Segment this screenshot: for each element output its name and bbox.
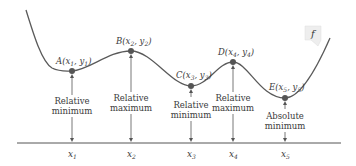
x4-tick-label: x4: [229, 149, 238, 160]
point-a: A(x1, y1) Relative minimum x1: [52, 56, 93, 160]
point-d-marker: [230, 59, 236, 65]
point-c-label: C(x3, y3): [176, 70, 212, 81]
point-a-annotation-2: minimum: [52, 106, 93, 116]
point-d-label: D(x4, y4): [217, 47, 254, 58]
point-a-annotation-1: Relative: [54, 96, 89, 106]
point-b-marker: [128, 48, 134, 54]
point-e-annotation-2: minimum: [265, 121, 306, 131]
point-c-annotation-2: minimum: [171, 110, 212, 120]
point-e-label: E(x5, y5): [268, 82, 305, 93]
point-b-annotation-1: Relative: [113, 93, 148, 103]
point-c-annotation-1: Relative: [173, 100, 208, 110]
point-e-annotation-1: Absolute: [265, 111, 304, 121]
x5-tick-label: x5: [281, 149, 290, 160]
point-c: C(x3, y3) Relative minimum x3: [171, 70, 212, 160]
point-d-annotation-1: Relative: [215, 93, 250, 103]
point-b: B(x2, y2) Relative maximum x2: [110, 36, 152, 160]
x2-tick-label: x2: [127, 149, 136, 160]
point-a-marker: [69, 68, 75, 74]
x3-tick-label: x3: [187, 149, 196, 160]
extrema-diagram: f A(x1, y1) Relative minimum x1 B(x2, y2…: [0, 0, 356, 166]
point-b-annotation-2: maximum: [110, 103, 152, 113]
point-a-label: A(x1, y1): [55, 56, 91, 67]
function-label: f: [305, 26, 321, 46]
x1-tick-label: x1: [68, 149, 77, 160]
point-d-annotation-2: maximum: [212, 103, 254, 113]
point-c-marker: [188, 83, 194, 89]
point-b-label: B(x2, y2): [115, 36, 152, 47]
point-e-marker: [282, 95, 288, 101]
